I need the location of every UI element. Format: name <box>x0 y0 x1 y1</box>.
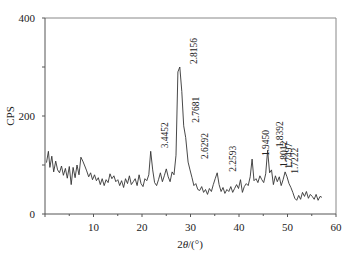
x-tick-label: 30 <box>185 221 197 233</box>
xrd-chart: 102030405060 0200400 3.44522.81562.76812… <box>0 0 350 263</box>
peak-annotations: 3.44522.81562.76812.62922.25931.94501.83… <box>160 38 299 174</box>
y-tick-label: 400 <box>19 12 36 24</box>
x-tick-label: 50 <box>282 221 294 233</box>
y-tick-label: 0 <box>30 208 36 220</box>
y-axis-title: CPS <box>4 106 16 126</box>
peak-label: 1.7222 <box>290 147 300 173</box>
peak-label: 2.6292 <box>200 133 210 159</box>
peak-label: 2.8156 <box>189 38 199 64</box>
x-axis-title: 2θ/(°) <box>177 238 203 251</box>
x-tick-label: 10 <box>88 221 100 233</box>
peak-label: 3.4452 <box>160 122 170 148</box>
x-ticks: 102030405060 <box>45 214 342 233</box>
x-tick-label: 40 <box>234 221 246 233</box>
peak-label: 2.2593 <box>228 145 238 171</box>
peak-label: 1.9450 <box>261 130 271 156</box>
y-ticks: 0200400 <box>19 12 46 220</box>
x-tick-label: 20 <box>137 221 149 233</box>
peak-label: 2.7681 <box>191 96 201 122</box>
x-tick-label: 60 <box>331 221 343 233</box>
y-tick-label: 200 <box>19 110 36 122</box>
